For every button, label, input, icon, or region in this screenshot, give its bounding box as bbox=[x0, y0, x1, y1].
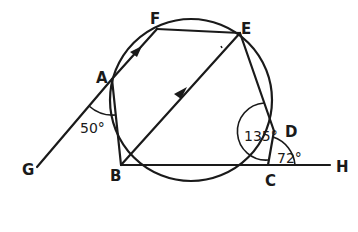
circumcircle bbox=[110, 19, 272, 181]
point-label-H: H bbox=[336, 158, 349, 176]
point-label-G: G bbox=[22, 161, 34, 179]
diagram-canvas: 50° 135° 72° A F E D C B G H bbox=[0, 0, 358, 232]
geometry-diagram: 50° 135° 72° A F E D C B G H bbox=[0, 0, 358, 232]
tick-mark bbox=[221, 46, 222, 48]
point-label-D: D bbox=[285, 123, 297, 141]
angle-label-EDC: 135° bbox=[244, 128, 278, 144]
point-label-A: A bbox=[96, 69, 108, 87]
segment-FE bbox=[157, 29, 240, 33]
angle-label-GAB: 50° bbox=[80, 120, 105, 136]
point-label-F: F bbox=[150, 10, 160, 28]
point-label-E: E bbox=[241, 20, 251, 38]
point-label-B: B bbox=[110, 167, 121, 185]
point-label-C: C bbox=[265, 172, 276, 190]
angle-label-DCH: 72° bbox=[277, 150, 302, 166]
parallel-arrow-AF bbox=[130, 46, 142, 57]
